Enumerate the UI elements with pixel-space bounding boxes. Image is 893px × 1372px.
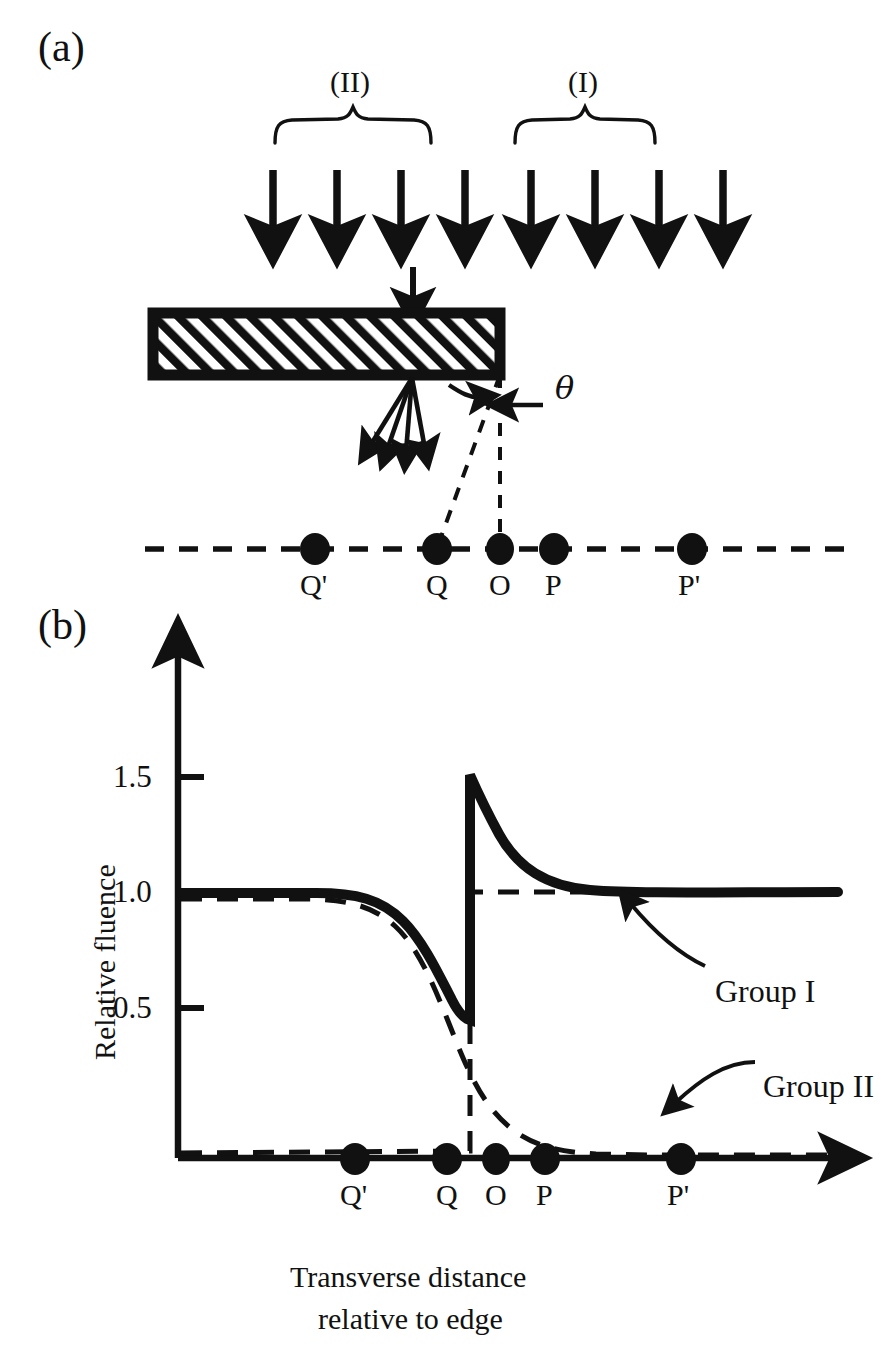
point-q-prime — [300, 533, 330, 565]
theta-label: θ — [555, 372, 574, 404]
panel-a-label-o: O — [489, 570, 511, 600]
point-q — [422, 533, 452, 565]
point-o — [486, 533, 514, 565]
xtick-label-q-prime: Q' — [340, 1180, 367, 1210]
xpoint-o — [482, 1143, 510, 1175]
panel-b-label: (b) — [38, 604, 87, 646]
brace-group-II — [275, 107, 431, 143]
xtick-label-p-prime: P' — [667, 1180, 689, 1210]
group-i-annotation-arrow — [630, 903, 705, 966]
xtick-label-p: P — [536, 1180, 553, 1210]
panel-a-label-p: P — [545, 570, 562, 600]
panel-a-label-q: Q — [426, 570, 448, 600]
xpoint-q-prime — [340, 1143, 370, 1175]
brace-group-I — [515, 107, 655, 143]
incident-arrows-group-ii — [273, 170, 465, 238]
xtick-label-q: Q — [436, 1180, 458, 1210]
point-p-prime — [677, 533, 707, 565]
absorber-slab — [153, 313, 500, 375]
figure-root: (a) (b) (II) (I) θ Q' Q O P P' 1.5 1.0 0… — [0, 0, 893, 1372]
group-ii-annotation-arrow — [675, 1062, 755, 1103]
xpoint-q — [432, 1143, 462, 1175]
ray-to-q — [437, 375, 500, 548]
panel-a-graphics — [145, 107, 855, 565]
annotation-group-i: Group I — [715, 975, 815, 1007]
x-axis-title-line1: Transverse distance — [290, 1262, 526, 1292]
ytick-label-1-5: 1.5 — [113, 761, 152, 792]
incident-arrows-group-i — [531, 170, 723, 238]
xtick-label-o: O — [485, 1180, 507, 1210]
figure-canvas — [0, 0, 893, 1372]
xpoint-p — [530, 1143, 560, 1175]
scattered-arrows — [370, 378, 425, 452]
brace-label-group-i: (I) — [568, 67, 598, 97]
panel-a-label: (a) — [38, 26, 85, 68]
theta-angle-indicator — [449, 385, 543, 405]
group-ii-curve — [181, 899, 838, 1155]
panel-b-graphics — [178, 648, 838, 1175]
panel-a-label-q-prime: Q' — [300, 570, 327, 600]
point-p — [539, 533, 569, 565]
annotation-group-ii: Group II — [763, 1070, 874, 1102]
y-axis-title: Relative fluence — [88, 864, 122, 1060]
panel-a-label-p-prime: P' — [678, 570, 700, 600]
group-i-curve — [181, 892, 838, 1153]
xpoint-p-prime — [666, 1143, 696, 1175]
x-axis-title-line2: relative to edge — [318, 1304, 503, 1334]
brace-label-group-ii: (II) — [330, 67, 370, 97]
